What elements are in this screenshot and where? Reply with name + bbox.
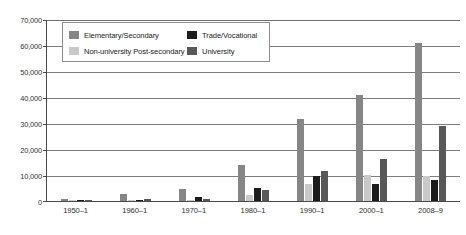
x-axis-tick-label: 1960–1 (105, 206, 164, 226)
bar (262, 190, 269, 201)
x-axis-tick-label: 1970–1 (164, 206, 223, 226)
bar-group (283, 20, 342, 201)
legend-label: Trade/Vocational (202, 31, 257, 40)
bar-set (401, 20, 460, 201)
bar (187, 200, 194, 201)
bar-group (342, 20, 401, 201)
y-axis-tick (43, 201, 47, 202)
y-axis-tick-label: 30,000 (20, 120, 42, 129)
legend-swatch-icon (69, 47, 79, 55)
bar-set (342, 20, 401, 201)
bar (203, 199, 210, 201)
bar (431, 180, 438, 201)
legend-item-trade-vocational: Trade/Vocational (187, 31, 257, 40)
legend: Elementary/Secondary Trade/Vocational No… (62, 22, 270, 62)
legend-row: Non-university Post-secondary University (69, 43, 263, 59)
legend-label: Non-university Post-secondary (84, 47, 185, 56)
bar (372, 184, 379, 201)
bar (415, 43, 422, 201)
bar (254, 188, 261, 201)
y-axis-tick-label: 20,000 (20, 146, 42, 155)
bar (195, 197, 202, 201)
bar (136, 200, 143, 201)
x-axis-tick-label: 2000–1 (342, 206, 401, 226)
legend-item-elementary-secondary: Elementary/Secondary (69, 31, 187, 40)
x-axis-tick-label: 1990–1 (283, 206, 342, 226)
y-axis-tick-label: 0 (38, 198, 42, 207)
bar (238, 165, 245, 201)
bar (423, 176, 430, 201)
bar (85, 200, 92, 201)
bar (69, 200, 76, 201)
bar (364, 175, 371, 201)
bar (313, 176, 320, 201)
x-axis-labels: 1950–11960–11970–11980–11990–12000–12008… (46, 206, 460, 226)
bar (321, 171, 328, 201)
bar (128, 200, 135, 201)
legend-label: Elementary/Secondary (84, 31, 159, 40)
bar-chart: 70,000 60,000 50,000 40,000 30,000 20,00… (0, 0, 466, 235)
bar (439, 126, 446, 201)
legend-item-non-university-post-secondary: Non-university Post-secondary (69, 47, 187, 56)
y-axis-tick-label: 60,000 (20, 42, 42, 51)
bar (120, 194, 127, 201)
y-axis-labels: 70,000 60,000 50,000 40,000 30,000 20,00… (0, 20, 42, 202)
bar (179, 189, 186, 201)
bar (77, 200, 84, 201)
legend-item-university: University (187, 47, 234, 56)
bar (356, 95, 363, 201)
y-axis-tick-label: 40,000 (20, 94, 42, 103)
bar-group (401, 20, 460, 201)
y-axis-tick-label: 10,000 (20, 172, 42, 181)
legend-label: University (202, 47, 234, 56)
y-axis-tick-label: 50,000 (20, 68, 42, 77)
legend-swatch-icon (69, 31, 79, 39)
x-axis-tick-label: 2008–9 (401, 206, 460, 226)
bar (144, 199, 151, 201)
bar (305, 184, 312, 201)
x-axis-tick-label: 1950–1 (46, 206, 105, 226)
bar (61, 199, 68, 201)
legend-swatch-icon (187, 31, 197, 39)
bar (246, 195, 253, 201)
bar-set (283, 20, 342, 201)
y-axis-tick-label: 70,000 (20, 16, 42, 25)
legend-swatch-icon (187, 47, 197, 55)
bar (380, 159, 387, 201)
x-axis-tick-label: 1980–1 (223, 206, 282, 226)
bar (297, 119, 304, 201)
legend-row: Elementary/Secondary Trade/Vocational (69, 27, 263, 43)
